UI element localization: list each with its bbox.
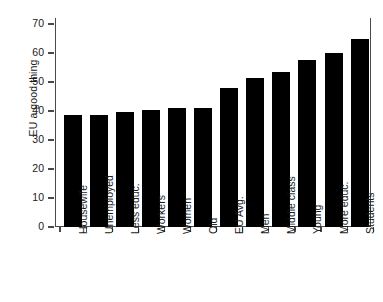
x-tick-label-text: Old	[207, 218, 219, 234]
x-tick-label-text: Women	[181, 198, 193, 234]
x-tick-label-text: Less educ.	[129, 183, 141, 234]
x-tick-label-text: Middle class	[285, 176, 297, 234]
x-tick-label-text: Men	[259, 214, 271, 234]
x-tick-label-text: Young	[311, 205, 323, 234]
x-tick-label-text: More educ.	[338, 181, 350, 234]
x-axis: HousewifeUnemployedLess educ.WorkersWome…	[0, 0, 383, 302]
x-tick-label-text: Unemployed	[103, 175, 115, 234]
bar-chart: EU a good thing 010203040506070 Housewif…	[0, 0, 383, 302]
x-tick-mark	[59, 227, 60, 232]
x-tick-label-text: Students	[364, 193, 376, 234]
x-tick-label-text: EU Avg.	[233, 196, 245, 234]
x-tick-label-text: Housewife	[77, 185, 89, 234]
x-tick-label-text: Workers	[155, 195, 167, 234]
